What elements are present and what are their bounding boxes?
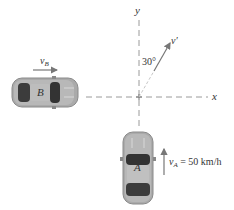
- x-axis-label: x: [212, 91, 217, 102]
- car-b: [12, 76, 78, 109]
- velocity-a-label: vA = 50 km/h: [169, 157, 221, 167]
- diagram-svg: [0, 0, 234, 210]
- relative-velocity-label: v′: [171, 36, 178, 46]
- angle-label: 30°: [142, 57, 156, 67]
- y-axis-label: y: [135, 5, 140, 16]
- car-a-label: A: [134, 162, 141, 173]
- diagram-canvas: y x 30° v′ vB B A vA = 50 km/h: [0, 0, 234, 210]
- relative-velocity-vector: [139, 43, 170, 97]
- car-b-label: B: [37, 87, 44, 98]
- velocity-b-label: vB: [40, 56, 49, 66]
